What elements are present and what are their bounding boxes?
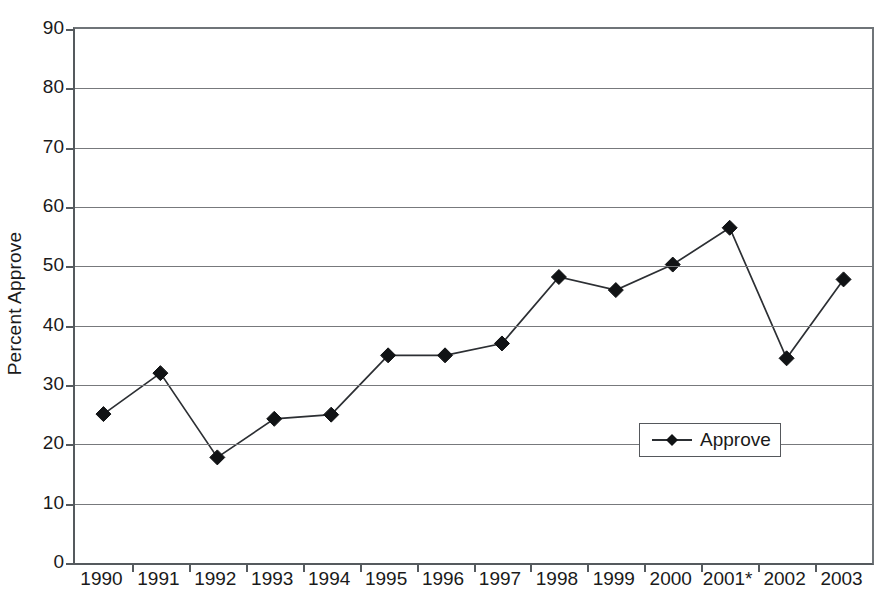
y-axis-tick-label: 20 [22, 433, 64, 452]
x-axis-tick-label: 2000 [650, 569, 692, 588]
x-axis-tick-labels: 1990199119921993199419951996199719981999… [73, 0, 870, 607]
x-axis-tick-label: 1998 [536, 569, 578, 588]
y-axis-tick-label: 70 [22, 137, 64, 156]
x-axis-tick-label: 1992 [194, 569, 236, 588]
x-axis-tick-label: 1990 [80, 569, 122, 588]
x-axis-tick-label: 2001* [703, 569, 753, 588]
x-axis-tick-label: 1995 [365, 569, 407, 588]
x-axis-tick-label: 1991 [137, 569, 179, 588]
y-axis-tick-label: 60 [22, 196, 64, 215]
y-axis-tick-labels: 0102030405060708090 [16, 0, 64, 607]
y-axis-tick-label: 10 [22, 493, 64, 512]
x-axis-tick-label: 2003 [820, 569, 862, 588]
x-axis-tick-label: 2002 [763, 569, 805, 588]
x-axis-tick-label: 1999 [593, 569, 635, 588]
y-axis-tick-label: 80 [22, 77, 64, 96]
legend-marker-icon [650, 432, 694, 448]
y-axis-tick-label: 0 [22, 552, 64, 571]
chart-legend: Approve [639, 423, 781, 457]
x-axis-tick-label: 1997 [479, 569, 521, 588]
y-axis-tick-label: 40 [22, 315, 64, 334]
x-axis-tick-label: 1994 [308, 569, 350, 588]
x-axis-tick-label: 1993 [251, 569, 293, 588]
y-axis-tick-label: 50 [22, 255, 64, 274]
y-axis-tick-label: 30 [22, 374, 64, 393]
legend-label-approve: Approve [700, 429, 771, 451]
line-chart: Percent Approve 0102030405060708090 1990… [0, 0, 881, 607]
y-axis-tick-label: 90 [22, 18, 64, 37]
x-axis-tick-label: 1996 [422, 569, 464, 588]
